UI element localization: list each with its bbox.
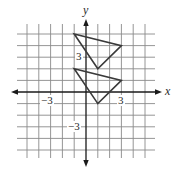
x-tick-label-3: 3: [117, 95, 125, 106]
x-axis-label: x: [165, 85, 170, 97]
coordinate-plane: [0, 0, 181, 175]
y-axis-label: y: [83, 4, 88, 16]
x-axis-left-arrow-icon: [11, 89, 18, 94]
y-tick-label-3: 3: [75, 51, 83, 62]
y-axis-down-arrow-icon: [83, 160, 88, 167]
x-axis-right-arrow-icon: [155, 89, 162, 94]
y-axis-up-arrow-icon: [83, 19, 88, 26]
x-tick-label-neg3: −3: [40, 95, 54, 106]
y-axis: [83, 19, 88, 167]
y-tick-label-neg3: −3: [67, 121, 81, 132]
